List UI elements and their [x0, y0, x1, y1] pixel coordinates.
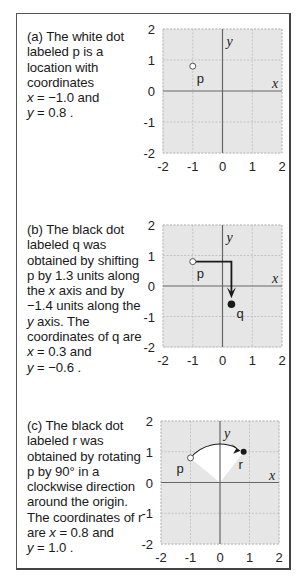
- x-tick-label: 2: [275, 550, 282, 565]
- y-tick-label: -2: [141, 537, 153, 552]
- point-label-r: r: [239, 457, 244, 472]
- y-tick-label: 0: [146, 476, 153, 491]
- plot-panel-c: yx-2-1012210-1-2pr: [0, 0, 307, 581]
- x-tick-label: 1: [246, 550, 253, 565]
- white-dot-p: [188, 455, 194, 461]
- point-label-p: p: [177, 461, 184, 476]
- x-axis-label: x: [268, 468, 276, 483]
- y-axis-label: y: [222, 426, 231, 441]
- x-tick-label: 0: [216, 550, 223, 565]
- y-tick-label: -1: [141, 506, 153, 521]
- black-dot-r: [241, 449, 247, 455]
- x-tick-label: -1: [185, 550, 197, 565]
- y-tick-label: 1: [146, 445, 153, 460]
- y-tick-label: 2: [146, 414, 153, 429]
- x-tick-label: -2: [155, 550, 167, 565]
